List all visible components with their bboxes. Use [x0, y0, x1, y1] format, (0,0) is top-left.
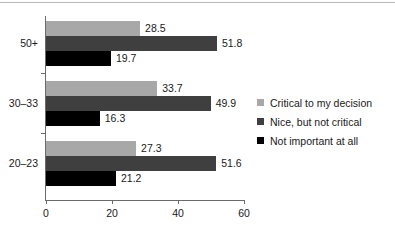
x-axis-tick-label: 20 [106, 207, 118, 219]
bar-value-label: 21.2 [121, 171, 141, 186]
bar-chart: 0204060 50+30–3320–23 28.551.819.733.749… [0, 0, 395, 233]
x-axis-tick [46, 200, 47, 204]
x-axis-tick [244, 200, 245, 204]
bar [46, 171, 116, 186]
legend-item[interactable]: Not important at all [257, 131, 372, 150]
x-axis-tick-label: 0 [43, 207, 49, 219]
bar-value-label: 51.6 [221, 156, 241, 171]
bar-value-label: 33.7 [162, 81, 182, 96]
bar [46, 51, 111, 66]
legend-label: Not important at all [270, 135, 358, 147]
legend-swatch-icon [257, 137, 264, 144]
bar [46, 156, 216, 171]
bar [46, 36, 217, 51]
bar [46, 21, 140, 36]
bar [46, 96, 211, 111]
bar [46, 141, 136, 156]
x-axis-tick [112, 200, 113, 204]
legend-label: Critical to my decision [270, 97, 372, 109]
legend-swatch-icon [257, 118, 264, 125]
bar-value-label: 19.7 [116, 51, 136, 66]
plot-area: 28.551.819.733.749.916.327.351.621.2 [46, 16, 244, 200]
y-axis-tick-labels: 50+30–3320–23 [0, 0, 38, 233]
x-axis-tick [178, 200, 179, 204]
legend-label: Nice, but not critical [270, 116, 362, 128]
bar-value-label: 27.3 [141, 141, 161, 156]
bar [46, 81, 157, 96]
bar [46, 111, 100, 126]
y-axis-tick-label: 50+ [20, 37, 38, 49]
y-axis-tick-label: 20–23 [9, 157, 38, 169]
x-axis-tick-label: 60 [238, 207, 250, 219]
chart-legend: Critical to my decisionNice, but not cri… [257, 93, 372, 150]
legend-item[interactable]: Nice, but not critical [257, 112, 372, 131]
legend-item[interactable]: Critical to my decision [257, 93, 372, 112]
bar-value-label: 51.8 [222, 36, 242, 51]
legend-swatch-icon [257, 99, 264, 106]
x-axis-line [45, 200, 244, 201]
bar-value-label: 28.5 [145, 21, 165, 36]
bar-value-label: 16.3 [105, 111, 125, 126]
y-axis-tick-label: 30–33 [9, 97, 38, 109]
bar-value-label: 49.9 [216, 96, 236, 111]
x-axis-tick-label: 40 [172, 207, 184, 219]
top-divider-rule [0, 2, 395, 3]
